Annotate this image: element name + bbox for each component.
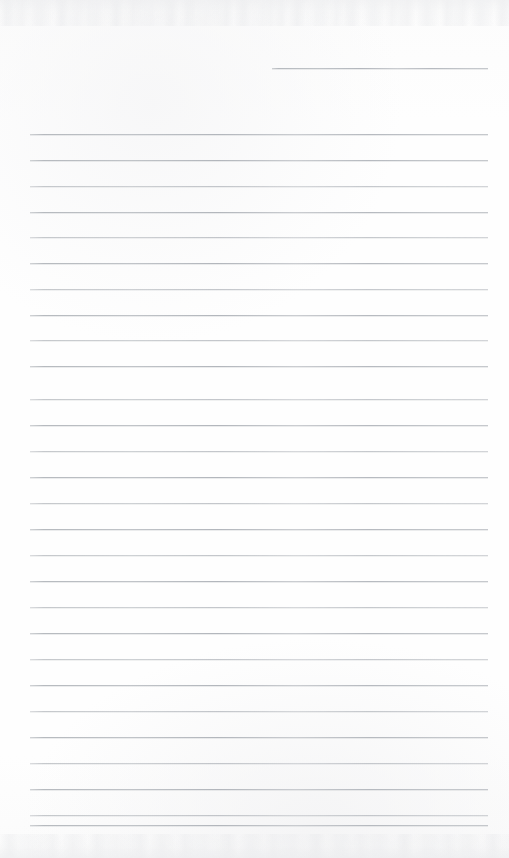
scan-noise-bottom-edge xyxy=(0,834,509,858)
ruling-line xyxy=(30,607,488,608)
paper-background-tone xyxy=(0,0,509,858)
ruling-line xyxy=(30,685,488,686)
ruling-line xyxy=(30,737,488,738)
ruling-line xyxy=(30,263,488,264)
ruling-line xyxy=(30,763,488,764)
ruling-line xyxy=(30,451,488,452)
ruling-line xyxy=(30,237,488,238)
ruling-line xyxy=(30,711,488,712)
ruling-line xyxy=(30,366,488,367)
ruling-line xyxy=(30,315,488,316)
ruling-line xyxy=(30,555,488,556)
ruling-line xyxy=(30,477,488,478)
ruling-line xyxy=(30,134,488,135)
ruling-line xyxy=(30,659,488,660)
ruling-line xyxy=(30,340,488,341)
scan-noise-top-edge xyxy=(0,0,509,26)
ruling-line xyxy=(30,789,488,790)
ruling-line xyxy=(30,212,488,213)
ruling-line xyxy=(30,503,488,504)
ruling-line xyxy=(30,825,488,826)
ruling-line xyxy=(30,815,488,816)
ruling-line xyxy=(30,160,488,161)
ruling-line xyxy=(30,581,488,582)
ruling-line xyxy=(30,399,488,400)
ruling-line xyxy=(30,633,488,634)
partial-ruling-line xyxy=(272,68,488,69)
ruling-line xyxy=(30,289,488,290)
ruling-line xyxy=(30,425,488,426)
scanned-page xyxy=(0,0,509,858)
ruling-line xyxy=(30,186,488,187)
ruling-line xyxy=(30,529,488,530)
